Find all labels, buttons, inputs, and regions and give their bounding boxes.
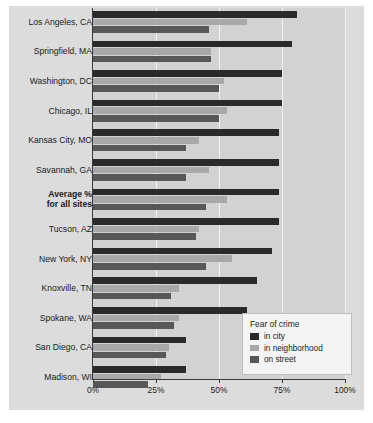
x-tick-label: 0% [87, 385, 99, 395]
bar-in-neighborhood [93, 344, 169, 351]
legend-label: on street [264, 355, 296, 364]
bar-group [93, 10, 345, 36]
tick-mark [156, 379, 157, 383]
bar-row: Kansas City, MO [0, 126, 373, 156]
category-label: Average %for all sites [47, 190, 92, 210]
bar-in-neighborhood [93, 78, 224, 85]
bar-on-street [93, 115, 219, 122]
bar-group [93, 158, 345, 184]
bar-in-city [93, 337, 186, 344]
x-tick-label: 75% [274, 385, 291, 395]
fear-of-crime-bar-chart: Los Angeles, CASpringfield, MAWashington… [0, 0, 373, 423]
x-tick-label: 50% [211, 385, 228, 395]
bar-on-street [93, 263, 206, 270]
bar-in-neighborhood [93, 19, 247, 26]
legend: Fear of crime in cityin neighborhoodon s… [242, 313, 352, 375]
bar-group [93, 217, 345, 243]
tick-mark [282, 379, 283, 383]
legend-label: in neighborhood [264, 344, 323, 353]
category-label: San Diego, CA [35, 343, 92, 353]
bar-in-city [93, 277, 257, 284]
legend-items: in cityin neighborhoodon street [250, 332, 345, 364]
category-label: New York, NY [39, 255, 92, 265]
bar-in-city [93, 41, 292, 48]
bar-on-street [93, 26, 209, 33]
bar-in-city [93, 100, 282, 107]
bar-row: Tucson, AZ [0, 215, 373, 245]
category-label: Spokane, WA [40, 314, 92, 324]
y-axis-line [92, 8, 93, 380]
bar-group [93, 128, 345, 154]
bar-row: Savannah, GA [0, 156, 373, 186]
bar-in-city [93, 70, 282, 77]
category-label: Madison, WI [44, 373, 92, 383]
bar-on-street [93, 145, 186, 152]
legend-item: in neighborhood [250, 344, 345, 353]
category-label: Savannah, GA [36, 166, 92, 176]
bar-in-neighborhood [93, 315, 179, 322]
bar-in-neighborhood [93, 167, 209, 174]
bar-on-street [93, 85, 219, 92]
legend-swatch-icon [250, 345, 259, 352]
bar-in-city [93, 366, 186, 373]
bar-in-city [93, 129, 279, 136]
category-label: Washington, DC [30, 77, 92, 87]
bar-on-street [93, 381, 148, 388]
bar-in-neighborhood [93, 196, 227, 203]
legend-item: in city [250, 332, 345, 341]
category-label: Los Angeles, CA [28, 18, 92, 28]
bar-row: New York, NY [0, 245, 373, 275]
bar-group [93, 247, 345, 273]
category-label: Springfield, MA [34, 47, 92, 57]
legend-title: Fear of crime [250, 319, 345, 329]
tick-mark [93, 379, 94, 383]
bar-on-street [93, 322, 174, 329]
bar-in-neighborhood [93, 107, 227, 114]
category-label: Chicago, IL [49, 107, 92, 117]
bar-in-city [93, 307, 247, 314]
bar-on-street [93, 352, 166, 359]
bar-on-street [93, 204, 206, 211]
bar-on-street [93, 293, 171, 300]
bar-on-street [93, 56, 211, 63]
category-label: Tucson, AZ [49, 225, 92, 235]
bar-group [93, 40, 345, 66]
bar-in-neighborhood [93, 285, 179, 292]
x-tick-label: 100% [334, 385, 355, 395]
bar-row: Average %for all sites [0, 186, 373, 216]
bar-group [93, 69, 345, 95]
bar-in-neighborhood [93, 137, 199, 144]
bar-on-street [93, 174, 186, 181]
tick-mark [219, 379, 220, 383]
bar-on-street [93, 233, 196, 240]
bar-in-neighborhood [93, 255, 232, 262]
legend-swatch-icon [250, 356, 259, 363]
bar-group [93, 99, 345, 125]
legend-item: on street [250, 355, 345, 364]
bar-in-city [93, 248, 272, 255]
bar-row: Los Angeles, CA [0, 8, 373, 38]
bar-in-city [93, 11, 297, 18]
bar-in-city [93, 218, 279, 225]
category-label: Knoxville, TN [42, 284, 92, 294]
category-label: Kansas City, MO [28, 136, 92, 146]
legend-label: in city [264, 332, 285, 341]
bar-row: Washington, DC [0, 67, 373, 97]
bar-in-neighborhood [93, 226, 199, 233]
bar-group [93, 188, 345, 214]
tick-mark [345, 379, 346, 383]
bar-in-city [93, 159, 279, 166]
bar-in-neighborhood [93, 48, 211, 55]
legend-swatch-icon [250, 333, 259, 340]
bar-in-city [93, 189, 279, 196]
bar-row: Knoxville, TN [0, 274, 373, 304]
bar-group [93, 276, 345, 302]
x-tick-label: 25% [148, 385, 165, 395]
bar-row: Springfield, MA [0, 38, 373, 68]
bar-row: Chicago, IL [0, 97, 373, 127]
